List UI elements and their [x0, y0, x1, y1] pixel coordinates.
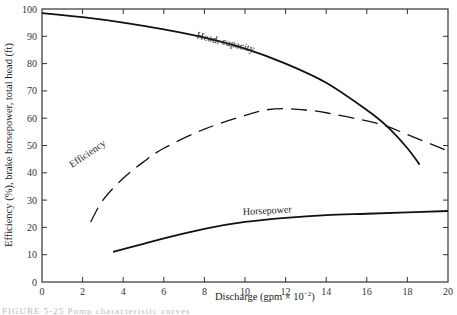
x-tick-label: 4 [121, 286, 126, 297]
y-tick-label: 60 [27, 113, 37, 124]
y-tick-label: 70 [27, 85, 37, 96]
x-tick-label: 6 [161, 286, 166, 297]
head-capacity-label: Head, capacity [196, 29, 256, 54]
x-axis-title: Discharge (gpm × 10−2) [215, 290, 315, 303]
y-tick-label: 90 [27, 31, 37, 42]
x-tick-label: 20 [443, 286, 453, 297]
x-tick-label: 2 [80, 286, 85, 297]
x-tick-label: 14 [321, 286, 331, 297]
x-tick-label: 0 [40, 286, 45, 297]
y-axis-title: Efficiency (%), brake horsepower, total … [3, 42, 15, 247]
x-tick-label: 8 [202, 286, 207, 297]
y-tick-label: 40 [27, 167, 37, 178]
figure-caption: FIGURE 5-25 Pump characteristic curves [2, 306, 190, 315]
chart-svg: 02468101214161820 0102030405060708090100… [0, 0, 457, 315]
y-tick-label: 30 [27, 195, 37, 206]
y-tick-label: 0 [32, 277, 37, 288]
efficiency-label: Efficiency [67, 137, 108, 169]
x-tick-label: 18 [402, 286, 412, 297]
horsepower-label: Horsepower [243, 203, 293, 217]
horsepower-curve [113, 211, 448, 252]
y-tick-label: 20 [27, 222, 37, 233]
y-tick-label: 10 [27, 249, 37, 260]
x-tick-label: 16 [362, 286, 372, 297]
y-tick-label: 50 [27, 140, 37, 151]
y-tick-label: 80 [27, 58, 37, 69]
y-tick-label: 100 [22, 4, 37, 15]
